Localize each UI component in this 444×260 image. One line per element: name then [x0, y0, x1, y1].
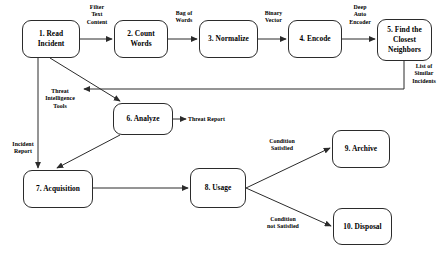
flowchart-diagram: 1. Read Incident 2. Count Words 3. Norma…: [0, 0, 444, 260]
node-disposal[interactable]: 10. Disposal: [333, 208, 392, 245]
node-acquisition[interactable]: 7. Acquisition: [23, 170, 93, 208]
edge-label-filter-text-content: Filter Text Content: [82, 4, 112, 26]
edge-label-threat-report: Threat Report: [188, 116, 240, 123]
node-find-closest-neighbors[interactable]: 5. Find the Closest Neighbors: [377, 19, 432, 61]
node-archive-label: 9. Archive: [335, 144, 387, 154]
edge-label-bag-of-words: Bag of Words: [169, 10, 199, 25]
node-usage[interactable]: 8. Usage: [190, 168, 246, 208]
edge-analyze-to-acquisition: [57, 135, 120, 168]
node-read-incident-label: 1. Read Incident: [25, 29, 77, 49]
edge-usage-to-archive: [246, 148, 330, 188]
node-encode[interactable]: 4. Encode: [288, 20, 342, 58]
edge-label-condition-satisfied: Condition Satisfied: [258, 138, 306, 153]
node-count-words[interactable]: 2. Count Words: [114, 20, 168, 58]
edge-label-incident-report: Incident Report: [8, 141, 38, 156]
node-count-words-label: 2. Count Words: [117, 29, 165, 49]
node-normalize[interactable]: 3. Normalize: [199, 20, 258, 58]
edge-label-binary-vector: Binary Vector: [259, 10, 288, 25]
node-analyze-label: 6. Analyze: [116, 114, 170, 124]
node-usage-label: 8. Usage: [193, 183, 243, 193]
edge-label-deep-auto-encoder: Deep Auto Encoder: [343, 4, 377, 26]
edge-label-threat-intelligence-tools: Threat Intelligence Tools: [36, 88, 84, 110]
edge-label-condition-not-satisfied: Condition not Satisfied: [256, 216, 310, 231]
edge-label-list-of-similar-incidents: List of Similar Incidents: [405, 63, 443, 85]
edge-find-closest-neighbors-to-analyze: [84, 61, 404, 89]
node-archive[interactable]: 9. Archive: [332, 130, 390, 168]
node-analyze[interactable]: 6. Analyze: [113, 103, 173, 135]
node-encode-label: 4. Encode: [291, 34, 339, 44]
node-find-closest-neighbors-label: 5. Find the Closest Neighbors: [380, 25, 429, 54]
node-normalize-label: 3. Normalize: [202, 34, 255, 44]
node-disposal-label: 10. Disposal: [336, 222, 389, 232]
node-acquisition-label: 7. Acquisition: [26, 184, 90, 194]
node-read-incident[interactable]: 1. Read Incident: [22, 20, 80, 58]
